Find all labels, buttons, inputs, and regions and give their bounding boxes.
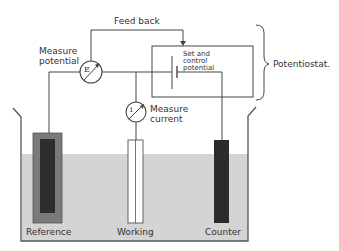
reference-label: Reference [26,227,72,237]
measure-potential-label: Measure [39,46,78,56]
measure-potential-label-2: potential [39,56,79,66]
reference-electrode [33,133,62,223]
measure-current-label: Measure [150,104,189,114]
counter-electrode [214,140,229,223]
counter-label: Counter [205,227,241,237]
potentiostat-label: Potentiostat. [273,59,330,69]
feedback-label: Feed back [114,16,161,26]
voltmeter-symbol: E [84,65,90,74]
potentiostat-diagram: Feed back E Measure potential i Measure … [0,0,339,251]
working-label: Working [117,227,154,237]
ammeter: i [126,102,146,122]
voltmeter: E [80,61,102,83]
set-control-label-3: potential [183,64,214,72]
feedback-arrow-icon [180,41,186,46]
ammeter-symbol: i [130,105,133,114]
measure-current-label-2: current [150,114,183,124]
working-electrode [128,140,143,223]
diagram-canvas: Feed back E Measure potential i Measure … [0,0,339,251]
potentiostat-brace [256,25,269,100]
